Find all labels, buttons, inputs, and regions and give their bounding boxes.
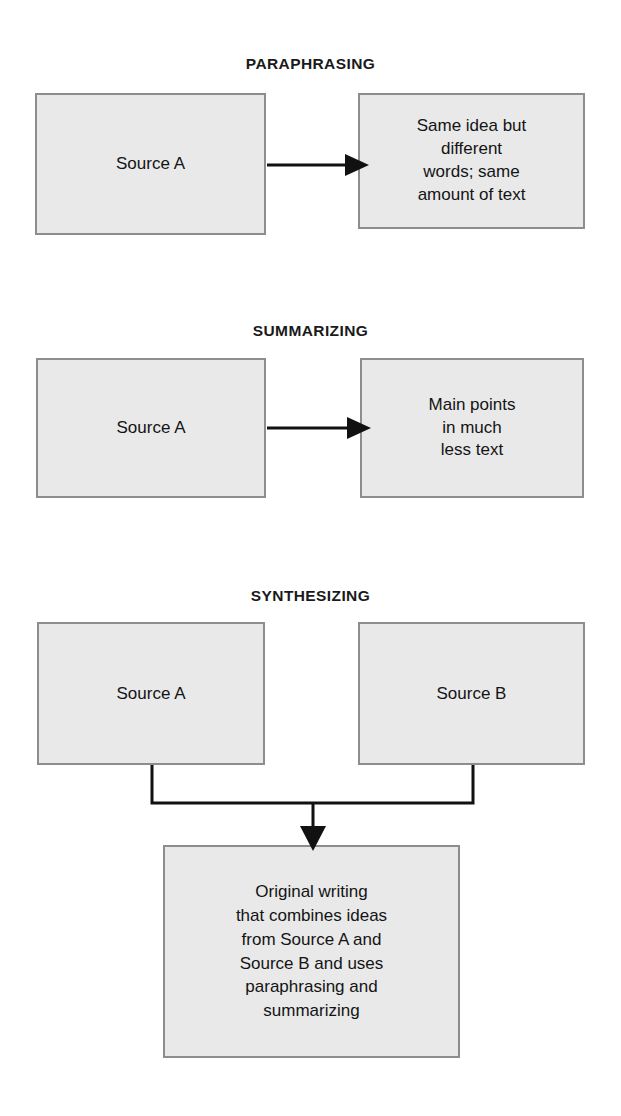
node-summarizing-source-a: Source A (36, 358, 266, 498)
node-paraphrasing-source-a: Source A (35, 93, 266, 235)
node-paraphrasing-result: Same idea but different words; same amou… (358, 93, 585, 229)
arrow-synthesizing-merge (152, 765, 473, 851)
node-summarizing-source-a-label: Source A (38, 416, 264, 439)
node-paraphrasing-source-a-label: Source A (37, 152, 264, 175)
node-summarizing-result: Main points in much less text (360, 358, 584, 498)
node-synthesizing-source-a: Source A (37, 622, 265, 765)
node-synthesizing-source-b-label: Source B (360, 682, 583, 705)
node-synthesizing-result: Original writing that combines ideas fro… (163, 845, 460, 1058)
section-title-paraphrasing: PARAPHRASING (0, 55, 621, 73)
node-summarizing-result-label: Main points in much less text (362, 394, 582, 462)
node-paraphrasing-result-label: Same idea but different words; same amou… (360, 115, 583, 206)
node-synthesizing-result-label: Original writing that combines ideas fro… (165, 880, 458, 1023)
arrow-summarizing (267, 417, 371, 439)
node-synthesizing-source-a-label: Source A (39, 682, 263, 705)
diagram-canvas: PARAPHRASING Source A Same idea but diff… (0, 0, 621, 1116)
section-title-synthesizing: SYNTHESIZING (0, 587, 621, 605)
section-title-summarizing: SUMMARIZING (0, 322, 621, 340)
arrow-paraphrasing (267, 154, 369, 176)
node-synthesizing-source-b: Source B (358, 622, 585, 765)
